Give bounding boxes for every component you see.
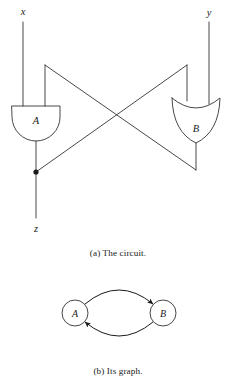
output-label-z: z [33, 223, 38, 234]
circuit-diagram: x y z A B [0, 0, 236, 248]
subfigure-graph: A B (b) Its graph. [0, 268, 236, 384]
caption-graph: (b) Its graph. [0, 366, 236, 376]
wire-b-output-to-a-input [45, 65, 196, 170]
graph-edge-a-to-b [85, 290, 153, 304]
graph-node-label-a: A [71, 308, 79, 319]
gate-label-a: A [32, 115, 40, 126]
caption-circuit: (a) The circuit. [0, 248, 236, 258]
subfigure-circuit: x y z A B (a) The circuit. [0, 0, 236, 268]
input-label-y: y [206, 7, 212, 18]
gate-label-b: B [193, 123, 200, 134]
graph-node-label-b: B [160, 308, 166, 319]
or-gate-b-body [172, 98, 220, 143]
input-label-x: x [20, 6, 26, 17]
junction-dot-z-tap [33, 169, 38, 174]
graph-edge-b-to-a [85, 322, 153, 336]
figure-root: x y z A B (a) The circuit. [0, 0, 236, 384]
wire-a-output-to-b-input [36, 65, 187, 172]
